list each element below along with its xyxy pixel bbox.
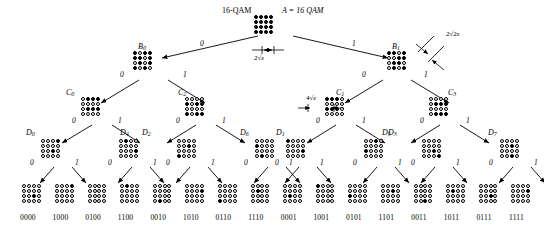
constellation-point (135, 189, 139, 193)
constellation-point (451, 194, 455, 198)
constellation-point (133, 61, 137, 65)
constellation-point (182, 139, 186, 143)
constellation-point (321, 199, 325, 203)
constellation-point (348, 184, 352, 188)
constellation-grid (218, 184, 238, 204)
constellation-point (120, 194, 124, 198)
constellation-point (444, 112, 448, 116)
constellation-c3 (429, 97, 449, 117)
constellation-point (270, 139, 274, 143)
constellation-leaf (283, 184, 303, 204)
constellation-leaf (315, 184, 335, 204)
constellation-grid (387, 51, 407, 71)
constellation-point (402, 66, 406, 70)
leaf-code-label: 1111 (509, 213, 524, 222)
constellation-point (363, 189, 367, 193)
constellation-point (130, 194, 134, 198)
constellation-point (93, 194, 97, 198)
constellation-point (296, 149, 300, 153)
constellation-point (505, 154, 509, 158)
constellation-point (484, 189, 488, 193)
constellation-point (392, 66, 396, 70)
constellation-point (386, 194, 390, 198)
constellation-leaf (446, 184, 466, 204)
leaf-code-label: 1000 (53, 213, 69, 222)
constellation-grid (413, 184, 433, 204)
constellation-point (414, 199, 418, 203)
constellation-point (446, 199, 450, 203)
constellation-point (124, 139, 128, 143)
constellation-point (185, 102, 189, 106)
constellation-point (124, 154, 128, 158)
constellation-point (291, 144, 295, 148)
constellation-point (391, 189, 395, 193)
constellation-point (330, 112, 334, 116)
constellation-point (264, 30, 268, 34)
constellation-point (223, 199, 227, 203)
constellation-point (190, 97, 194, 101)
constellation-point (419, 184, 423, 188)
constellation-point (163, 184, 167, 188)
constellation-grid (286, 139, 306, 159)
node-label-b0: B0 (138, 42, 146, 51)
constellation-point (55, 184, 59, 188)
constellation-point (259, 30, 263, 34)
constellation-point (381, 184, 385, 188)
constellation-point (269, 15, 273, 19)
constellation-point (148, 66, 152, 70)
constellation-point (526, 189, 530, 193)
constellation-point (293, 194, 297, 198)
constellation-d5 (364, 139, 384, 159)
constellation-point (195, 97, 199, 101)
constellation-point (461, 194, 465, 198)
constellation-point (265, 199, 269, 203)
constellation-point (296, 139, 300, 143)
constellation-point (516, 189, 520, 193)
constellation-d4 (119, 139, 139, 159)
constellation-leaf (511, 184, 531, 204)
constellation-point (432, 149, 436, 153)
constellation-point (397, 61, 401, 65)
constellation-grid (511, 184, 531, 204)
constellation-point (260, 144, 264, 148)
constellation-point (340, 97, 344, 101)
constellation-point (286, 144, 290, 148)
constellation-point (316, 189, 320, 193)
constellation-point (60, 189, 64, 193)
constellation-point (515, 149, 519, 153)
constellation-point (330, 97, 334, 101)
constellation-point (187, 154, 191, 158)
constellation-point (251, 194, 255, 198)
constellation-point (56, 154, 60, 158)
constellation-point (269, 20, 273, 24)
constellation-point (91, 112, 95, 116)
constellation-point (511, 199, 515, 203)
annotation-root-spacing: 2√ε (254, 54, 264, 62)
branch-bit-1: 1 (118, 116, 122, 125)
constellation-point (182, 149, 186, 153)
constellation-point (153, 189, 157, 193)
constellation-point (255, 149, 259, 153)
constellation-point (88, 194, 92, 198)
constellation-point (46, 144, 50, 148)
constellation-point (526, 199, 530, 203)
constellation-point (182, 144, 186, 148)
constellation-point (419, 189, 423, 193)
constellation-point (185, 112, 189, 116)
constellation-grid (152, 184, 172, 204)
constellation-point (363, 184, 367, 188)
constellation-point (335, 112, 339, 116)
constellation-point (446, 194, 450, 198)
constellation-point (32, 199, 36, 203)
constellation-point (195, 184, 199, 188)
constellation-grid (254, 15, 274, 35)
constellation-point (97, 194, 101, 198)
constellation-point (353, 199, 357, 203)
constellation-point (386, 184, 390, 188)
constellation-point (190, 107, 194, 111)
constellation-point (177, 154, 181, 158)
constellation-point (288, 189, 292, 193)
constellation-point (255, 139, 259, 143)
constellation-point (223, 189, 227, 193)
constellation-point (130, 184, 134, 188)
